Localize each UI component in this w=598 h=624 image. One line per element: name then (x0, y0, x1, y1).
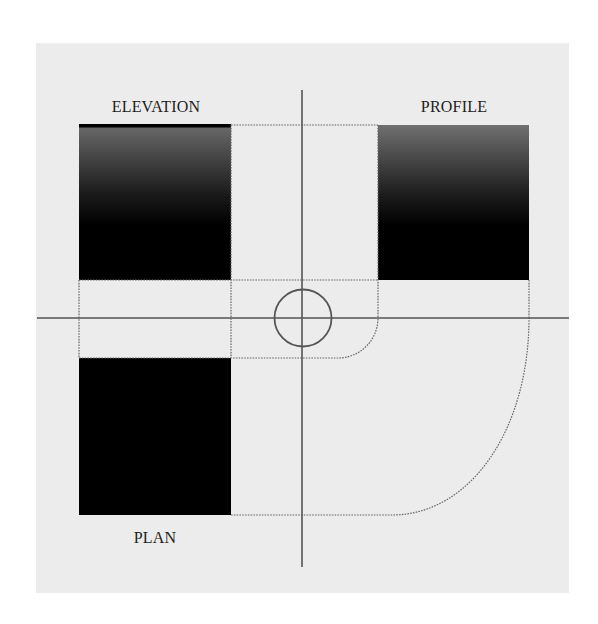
projection-diagram (0, 0, 598, 624)
elevation-label: ELEVATION (112, 99, 201, 115)
profile-label: PROFILE (421, 99, 487, 115)
plan-label: PLAN (134, 530, 177, 546)
plan-view (79, 358, 231, 515)
elevation-top-edge (79, 124, 231, 128)
profile-view (378, 125, 529, 280)
guide-inner-arc (79, 318, 378, 358)
elevation-view (79, 124, 231, 280)
guide-outer-arc (231, 318, 529, 515)
